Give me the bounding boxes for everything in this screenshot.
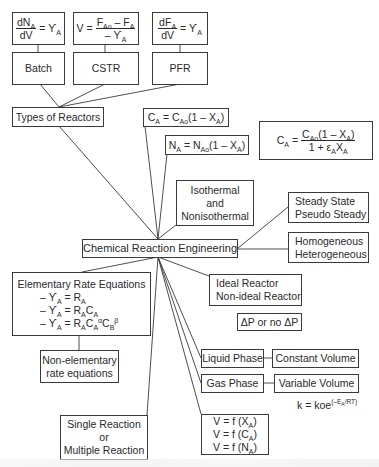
elementary-rate-title: Elementary Rate Equations xyxy=(18,278,146,291)
ideal-reactor-box: Ideal Reactor Non-ideal Reactor xyxy=(209,274,302,306)
volume-fn-xa: V = f (XA) xyxy=(213,415,256,428)
na-equation-box: NA = NAo(1 – XA) xyxy=(165,135,249,155)
thermal-line-3: Nonisothermal xyxy=(181,210,249,223)
thermal-line-2: and xyxy=(206,197,224,210)
pfr-box: PFR xyxy=(152,52,208,85)
pfr-label: PFR xyxy=(170,62,191,75)
constant-volume-box: Constant Volume xyxy=(272,349,359,368)
types-of-reactors-box: Types of Reactors xyxy=(12,107,104,127)
pfr-eq-den: dV xyxy=(161,29,174,41)
liquid-phase-label: Liquid Phase xyxy=(202,352,263,365)
volume-fn-na: V = f (NA) xyxy=(213,441,257,454)
ca-gas-den: 1 + ε xyxy=(309,141,332,153)
volume-functions-box: V = f (XA) V = f (CA) V = f (NA) xyxy=(201,414,269,455)
homogeneous-box: Homogeneous Heterogeneous xyxy=(288,232,369,263)
liquid-phase-box: Liquid Phase xyxy=(201,349,264,368)
elementary-rate-equations-box: Elementary Rate Equations – ϒA = RA – ϒA… xyxy=(12,272,151,336)
steady-line-2: Pseudo Steady xyxy=(295,208,366,221)
reactions-line-1: Single Reaction xyxy=(67,418,141,431)
steady-line-1: Steady State xyxy=(295,195,355,208)
cstr-label: CSTR xyxy=(92,62,121,75)
single-multiple-reaction-box: Single Reaction or Multiple Reaction xyxy=(60,415,148,460)
chemical-reaction-engineering-box: Chemical Reaction Engineering xyxy=(82,239,238,258)
batch-box: Batch xyxy=(12,52,65,85)
center-label: Chemical Reaction Engineering xyxy=(83,242,237,255)
ca-liquid-equation: CA = CAo(1 – XA) xyxy=(148,111,225,124)
cstr-eq-num-rest: – F xyxy=(112,16,130,28)
batch-eq-rhs-sub: A xyxy=(56,29,61,36)
batch-label: Batch xyxy=(25,62,52,75)
arrhenius-equation: k = koe(–EA/RT) xyxy=(297,399,357,411)
reactions-line-3: Multiple Reaction xyxy=(64,444,145,457)
ca-liquid-equation-box: CA = CAo(1 – XA) xyxy=(143,108,229,127)
page-bleed-through xyxy=(0,459,379,467)
batch-eq-num: dN xyxy=(17,16,30,28)
variable-volume-label: Variable Volume xyxy=(279,377,355,390)
batch-equation-box: dNA dV = ϒA xyxy=(12,12,65,45)
ca-gas-equals: = xyxy=(292,134,298,147)
ideal-line-2: Non-ideal Reactor xyxy=(216,290,301,303)
cstr-eq-lhs: V = xyxy=(77,22,93,35)
thermal-box: Isothermal and Nonisothermal xyxy=(176,180,254,226)
steady-state-box: Steady State Pseudo Steady xyxy=(288,192,369,223)
ideal-line-1: Ideal Reactor xyxy=(216,277,278,290)
na-equation: NA = NAo(1 – XA) xyxy=(169,139,246,152)
pfr-equation-box: dFA dV = ϒA xyxy=(152,12,208,45)
reactions-line-2: or xyxy=(99,431,108,444)
rate-eq-2: – ϒA = RACA xyxy=(40,304,118,317)
thermal-line-1: Isothermal xyxy=(190,184,239,197)
gas-phase-box: Gas Phase xyxy=(201,374,264,393)
batch-eq-rhs: = ϒ xyxy=(39,22,56,34)
ca-gas-lhs-sub: A xyxy=(284,141,289,148)
cstr-eq-num-rest-sub: A xyxy=(130,23,135,30)
rate-eq-1: – ϒA = RA xyxy=(40,291,118,304)
pfr-eq-rhs: = ϒ xyxy=(180,22,197,34)
batch-eq-den: dV xyxy=(20,29,33,41)
homogeneous-line-1: Homogeneous xyxy=(295,235,363,248)
pfr-eq-num: dF xyxy=(159,16,171,28)
cstr-box: CSTR xyxy=(73,52,139,85)
ca-gas-num: C xyxy=(302,128,310,140)
types-of-reactors-label: Types of Reactors xyxy=(16,111,101,124)
non-elementary-line-2: rate equations xyxy=(46,367,113,380)
pressure-drop-label: ΔP or no ΔP xyxy=(241,316,299,329)
gas-phase-label: Gas Phase xyxy=(207,377,259,390)
variable-volume-box: Variable Volume xyxy=(274,374,359,393)
rate-eq-3: – ϒA = RACAαCBβ xyxy=(40,317,118,330)
non-elementary-box: Non-elementary rate equations xyxy=(40,350,119,383)
concept-map: dNA dV = ϒA V = FAo – FA – ϒA dFA dV = ϒ… xyxy=(0,0,379,467)
non-elementary-line-1: Non-elementary xyxy=(42,354,117,367)
volume-fn-ca: V = f (CA) xyxy=(213,428,257,441)
ca-gas-equation-box: CA = CAo(1 – XA) 1 + εAXA xyxy=(259,121,373,160)
constant-volume-label: Constant Volume xyxy=(276,352,356,365)
cstr-equation-box: V = FAo – FA – ϒA xyxy=(73,12,139,45)
pfr-eq-rhs-sub: A xyxy=(197,29,202,36)
cstr-eq-den: – ϒ xyxy=(105,29,122,41)
homogeneous-line-2: Heterogeneous xyxy=(295,248,367,261)
cstr-eq-den-sub: A xyxy=(122,36,127,43)
pressure-drop-box: ΔP or no ΔP xyxy=(237,313,302,331)
